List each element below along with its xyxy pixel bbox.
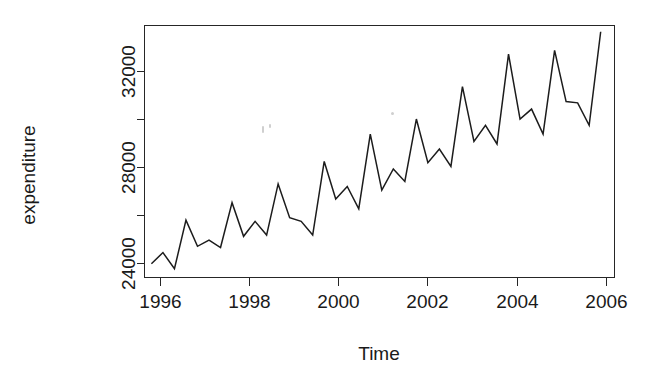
x-tick-label-1998: 1998 [228,291,270,312]
expenditure-time-series-plot: 32000 28000 24000 1996 1998 2000 2002 20… [0,0,656,381]
x-tick-label-2006: 2006 [585,291,627,312]
y-tick-label-28000: 28000 [118,141,139,194]
y-axis-title: expenditure [18,125,39,224]
x-tick-label-2000: 2000 [317,291,359,312]
x-tick-label-2002: 2002 [406,291,448,312]
y-tick-label-32000: 32000 [118,45,139,98]
x-tick-label-2004: 2004 [496,291,539,312]
x-axis-title: Time [358,343,400,364]
canvas-background [0,0,656,381]
chart-figure: 32000 28000 24000 1996 1998 2000 2002 20… [0,0,656,381]
y-axis-tick-labels: 32000 28000 24000 [118,45,139,290]
x-tick-label-1996: 1996 [139,291,181,312]
y-tick-label-24000: 24000 [118,237,139,290]
